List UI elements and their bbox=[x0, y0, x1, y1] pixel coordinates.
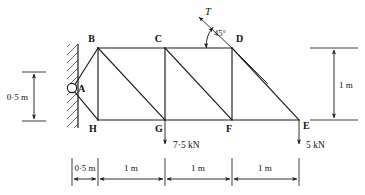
dimension-label-seg-1: 1 m bbox=[124, 163, 138, 173]
dimension-label-right-1m: 1 m bbox=[339, 80, 353, 90]
node-label-F: F bbox=[226, 123, 232, 134]
node-label-B: B bbox=[88, 33, 95, 44]
angle-label-45: 45° bbox=[214, 28, 226, 38]
node-label-G: G bbox=[155, 123, 163, 134]
node-label-A: A bbox=[78, 83, 86, 94]
member-D-E bbox=[232, 48, 299, 120]
force-T-group bbox=[199, 17, 268, 84]
dimension-label-seg-2: 1 m bbox=[191, 163, 205, 173]
truss-members-group bbox=[74, 48, 299, 120]
node-label-C: C bbox=[155, 33, 162, 44]
truss-diagram-figure: A B C D E F G H T 7·5 kN 5 kN 45° 0·5 m … bbox=[0, 0, 365, 195]
dimension-label-left-0-5m: 0·5 m bbox=[7, 92, 28, 102]
node-label-E: E bbox=[303, 120, 310, 131]
force-label-load-G: 7·5 kN bbox=[173, 140, 200, 150]
member-C-F bbox=[165, 48, 232, 120]
dimension-label-seg-0: 0·5 m bbox=[74, 163, 95, 173]
member-B-G bbox=[98, 48, 165, 120]
node-label-D: D bbox=[236, 33, 243, 44]
force-label-T: T bbox=[205, 6, 212, 17]
truss-diagram-svg: A B C D E F G H T 7·5 kN 5 kN 45° 0·5 m … bbox=[0, 0, 365, 195]
force-T-line-extension bbox=[232, 48, 268, 84]
pin-support-circle-A bbox=[67, 83, 76, 92]
node-label-H: H bbox=[89, 123, 97, 134]
dimension-label-seg-3: 1 m bbox=[258, 163, 272, 173]
angle-arc-45 bbox=[206, 28, 213, 49]
force-label-load-E: 5 kN bbox=[306, 140, 325, 150]
